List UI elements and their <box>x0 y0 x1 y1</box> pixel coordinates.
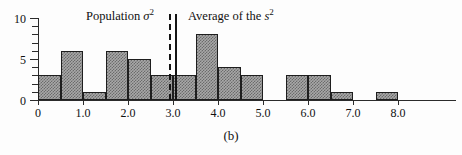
y-axis-minor-tick <box>32 92 38 93</box>
y-axis-major-tick: 5 <box>30 59 38 60</box>
y-axis-major-tick: 0 <box>30 100 38 101</box>
y-axis-minor-tick <box>32 51 38 52</box>
histogram-bar <box>286 75 309 100</box>
x-axis-label: 4.0 <box>211 107 226 119</box>
histogram-bar <box>83 92 106 100</box>
histogram-figure: 0510 01.02.03.04.05.06.07.08.0 Populatio… <box>0 0 462 155</box>
average-variance-label: Average of the s2 <box>188 10 274 23</box>
x-axis-tick <box>38 100 39 105</box>
y-axis-minor-tick <box>32 34 38 35</box>
histogram-bar <box>38 75 61 100</box>
population-label-text: Population <box>86 9 143 23</box>
y-axis-label: 10 <box>14 13 26 25</box>
s-exponent: 2 <box>269 7 274 17</box>
histogram-bar <box>128 59 151 100</box>
y-axis-minor-tick <box>32 67 38 68</box>
y-axis-label: 5 <box>20 54 26 66</box>
x-axis-label: 3.0 <box>166 107 181 119</box>
histogram-bar <box>331 92 354 100</box>
x-axis-tick <box>308 100 309 105</box>
y-axis-major-tick: 10 <box>30 18 38 19</box>
histogram-bar <box>196 34 219 100</box>
population-variance-label: Population σ2 <box>86 10 154 23</box>
x-axis-tick <box>263 100 264 105</box>
x-axis-tick <box>353 100 354 105</box>
x-axis-label: 8.0 <box>391 107 406 119</box>
y-axis-label: 0 <box>20 95 26 107</box>
average-sample-variance-reference-line <box>175 14 177 100</box>
plot-area: 0510 01.02.03.04.05.06.07.08.0 Populatio… <box>0 0 462 125</box>
histogram-bar <box>241 75 264 100</box>
x-axis-tick <box>83 100 84 105</box>
population-variance-reference-line <box>169 14 171 100</box>
x-axis-label: 1.0 <box>76 107 91 119</box>
x-axis-tick <box>218 100 219 105</box>
x-axis-tick <box>173 100 174 105</box>
x-axis-label: 5.0 <box>256 107 271 119</box>
y-axis-minor-tick <box>32 43 38 44</box>
x-axis-label: 0 <box>35 107 41 119</box>
y-axis-minor-tick <box>32 75 38 76</box>
x-axis-tick <box>128 100 129 105</box>
histogram-bar <box>308 75 331 100</box>
x-axis-label: 2.0 <box>121 107 136 119</box>
y-axis-minor-tick <box>32 26 38 27</box>
x-axis-label: 6.0 <box>301 107 316 119</box>
sigma-exponent: 2 <box>149 7 154 17</box>
x-axis-tick <box>398 100 399 105</box>
histogram-bar <box>218 67 241 100</box>
figure-caption: (b) <box>0 128 462 144</box>
x-axis-label: 7.0 <box>346 107 361 119</box>
histogram-bar <box>61 51 84 100</box>
y-axis-minor-tick <box>32 84 38 85</box>
x-axis-line <box>38 100 456 101</box>
histogram-bar <box>106 51 129 100</box>
histogram-bar <box>376 92 399 100</box>
average-label-text: Average of the <box>188 9 264 23</box>
